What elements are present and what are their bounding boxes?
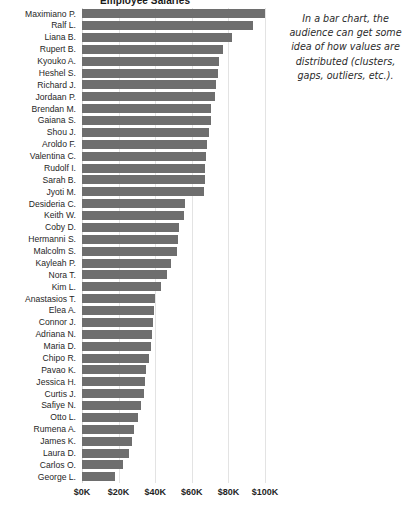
bar-category-label: Valentina C. bbox=[0, 150, 76, 162]
bar[interactable] bbox=[82, 140, 207, 149]
bar-row[interactable]: Brendan M. bbox=[0, 103, 290, 115]
bar-row[interactable]: Rumena A. bbox=[0, 424, 290, 436]
bar-category-label: Carlos O. bbox=[0, 459, 76, 471]
bar[interactable] bbox=[82, 259, 171, 268]
bar-category-label: Aroldo F. bbox=[0, 138, 76, 150]
bar[interactable] bbox=[82, 401, 141, 410]
bar[interactable] bbox=[82, 175, 205, 184]
bar-row[interactable]: Otto L. bbox=[0, 412, 290, 424]
bar[interactable] bbox=[82, 57, 219, 66]
bar[interactable] bbox=[82, 460, 123, 469]
bar-row[interactable]: Kayleah P. bbox=[0, 257, 290, 269]
bar[interactable] bbox=[82, 92, 215, 101]
bar[interactable] bbox=[82, 306, 154, 315]
bar[interactable] bbox=[82, 128, 209, 137]
bar[interactable] bbox=[82, 270, 167, 279]
bar-row[interactable]: Adriana N. bbox=[0, 329, 290, 341]
bar[interactable] bbox=[82, 389, 144, 398]
bar-category-label: Gaiana S. bbox=[0, 114, 76, 126]
bar-row[interactable]: Ralf L. bbox=[0, 20, 290, 32]
bar[interactable] bbox=[82, 449, 129, 458]
bars-layer: Maximiano P.Ralf L.Liana B.Rupert B.Kyou… bbox=[0, 8, 290, 483]
bar[interactable] bbox=[82, 104, 211, 113]
bar-row[interactable]: Laura D. bbox=[0, 447, 290, 459]
bar-row[interactable]: Pavao K. bbox=[0, 364, 290, 376]
bar-row[interactable]: Heshel S. bbox=[0, 67, 290, 79]
bar[interactable] bbox=[82, 80, 216, 89]
bar-row[interactable]: Hermanni S. bbox=[0, 234, 290, 246]
bar-row[interactable]: Curtis J. bbox=[0, 388, 290, 400]
bar-row[interactable]: Liana B. bbox=[0, 32, 290, 44]
bar-row[interactable]: Valentina C. bbox=[0, 151, 290, 163]
bar[interactable] bbox=[82, 282, 161, 291]
bar-category-label: Safiye N. bbox=[0, 399, 76, 411]
bar[interactable] bbox=[82, 21, 253, 30]
bar[interactable] bbox=[82, 9, 265, 18]
bar-category-label: Hermanni S. bbox=[0, 233, 76, 245]
bar[interactable] bbox=[82, 437, 132, 446]
bar-row[interactable]: Shou J. bbox=[0, 127, 290, 139]
bar-category-label: Sarah B. bbox=[0, 174, 76, 186]
bar-row[interactable]: Rupert B. bbox=[0, 44, 290, 56]
bar[interactable] bbox=[82, 33, 232, 42]
bar-category-label: Richard J. bbox=[0, 79, 76, 91]
bar[interactable] bbox=[82, 247, 177, 256]
bar[interactable] bbox=[82, 294, 155, 303]
bar-category-label: Kayleah P. bbox=[0, 257, 76, 269]
bar-row[interactable]: Chipo R. bbox=[0, 352, 290, 364]
bar[interactable] bbox=[82, 211, 184, 220]
bar[interactable] bbox=[82, 425, 134, 434]
bar-row[interactable]: Kim L. bbox=[0, 281, 290, 293]
bar[interactable] bbox=[82, 152, 206, 161]
bar[interactable] bbox=[82, 45, 223, 54]
bar-row[interactable]: James K. bbox=[0, 436, 290, 448]
bar[interactable] bbox=[82, 235, 178, 244]
bar-chart-figure: Employee Salaries Maximiano P.Ralf L.Lia… bbox=[0, 0, 410, 510]
bar-row[interactable]: Keith W. bbox=[0, 210, 290, 222]
bar-category-label: Kyouko A. bbox=[0, 55, 76, 67]
bar[interactable] bbox=[82, 330, 152, 339]
bar-row[interactable]: Coby D. bbox=[0, 222, 290, 234]
bar[interactable] bbox=[82, 116, 211, 125]
bar-row[interactable]: Carlos O. bbox=[0, 459, 290, 471]
bar-row[interactable]: Connor J. bbox=[0, 317, 290, 329]
bar-category-label: Nora T. bbox=[0, 269, 76, 281]
bar-row[interactable]: Jessica H. bbox=[0, 376, 290, 388]
bar[interactable] bbox=[82, 342, 151, 351]
bar-row[interactable]: Jordaan P. bbox=[0, 91, 290, 103]
bar[interactable] bbox=[82, 164, 205, 173]
bar-row[interactable]: George L. bbox=[0, 471, 290, 483]
bar-row[interactable]: Safiye N. bbox=[0, 400, 290, 412]
bar[interactable] bbox=[82, 223, 179, 232]
bar[interactable] bbox=[82, 199, 185, 208]
bar-row[interactable]: Malcolm S. bbox=[0, 246, 290, 258]
bar-row[interactable]: Rudolf I. bbox=[0, 162, 290, 174]
bar-row[interactable]: Maria D. bbox=[0, 341, 290, 353]
bar-row[interactable]: Aroldo F. bbox=[0, 139, 290, 151]
bar[interactable] bbox=[82, 187, 204, 196]
bar-row[interactable]: Desideria C. bbox=[0, 198, 290, 210]
bar-category-label: Maximiano P. bbox=[0, 8, 76, 20]
x-axis-tick-label: $100K bbox=[252, 486, 279, 498]
bar-row[interactable]: Jyoti M. bbox=[0, 186, 290, 198]
bar[interactable] bbox=[82, 318, 153, 327]
bar-row[interactable]: Maximiano P. bbox=[0, 8, 290, 20]
x-axis-tick-label: $40K bbox=[144, 486, 166, 498]
bar-category-label: Coby D. bbox=[0, 221, 76, 233]
bar-row[interactable]: Richard J. bbox=[0, 79, 290, 91]
bar-row[interactable]: Nora T. bbox=[0, 269, 290, 281]
bar[interactable] bbox=[82, 413, 138, 422]
bar-category-label: Elea A. bbox=[0, 304, 76, 316]
bar-category-label: James K. bbox=[0, 435, 76, 447]
bar[interactable] bbox=[82, 69, 218, 78]
bar-row[interactable]: Sarah B. bbox=[0, 174, 290, 186]
bar[interactable] bbox=[82, 472, 115, 481]
bar-row[interactable]: Elea A. bbox=[0, 305, 290, 317]
bar-row[interactable]: Gaiana S. bbox=[0, 115, 290, 127]
bar-category-label: Curtis J. bbox=[0, 388, 76, 400]
bar[interactable] bbox=[82, 377, 145, 386]
bar-row[interactable]: Anastasios T. bbox=[0, 293, 290, 305]
bar[interactable] bbox=[82, 365, 146, 374]
bar-row[interactable]: Kyouko A. bbox=[0, 56, 290, 68]
bar[interactable] bbox=[82, 354, 149, 363]
